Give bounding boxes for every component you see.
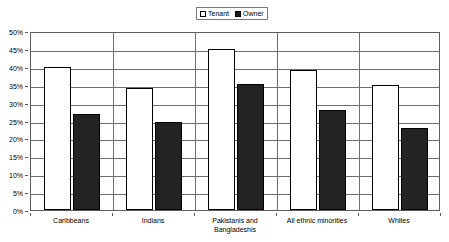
- y-tick-label: 30%: [9, 100, 23, 107]
- x-tick-mark: [358, 213, 359, 216]
- y-tick-mark: [25, 175, 28, 176]
- y-tick-mark: [25, 193, 28, 194]
- legend-label-owner: Owner: [243, 10, 264, 18]
- y-tick-mark: [25, 122, 28, 123]
- bar-owner: [155, 122, 182, 210]
- y-tick-mark: [25, 157, 28, 158]
- x-tick-mark: [112, 213, 113, 216]
- bars-layer: [31, 33, 439, 210]
- x-category-label: Pakistanis and Bangladeshis: [194, 216, 276, 234]
- bar-owner: [73, 114, 100, 210]
- chart-legend: Tenant Owner: [196, 7, 268, 20]
- y-tick-label: 40%: [9, 64, 23, 71]
- y-tick-mark: [25, 139, 28, 140]
- bar-owner: [319, 110, 346, 210]
- y-tick-label: 15%: [9, 154, 23, 161]
- plot-area: [30, 32, 440, 211]
- y-tick-mark: [25, 211, 28, 212]
- y-axis: 50%45%40%35%30%25%20%15%10%5%0%: [0, 32, 28, 211]
- y-tick-mark: [25, 32, 28, 33]
- legend-label-tenant: Tenant: [208, 10, 229, 18]
- x-category-label: Indians: [112, 216, 194, 225]
- x-category-label: Caribbeans: [30, 216, 112, 225]
- y-tick-label: 0%: [13, 208, 23, 215]
- y-tick-mark: [25, 104, 28, 105]
- legend-entry-owner: Owner: [235, 10, 264, 18]
- y-tick-mark: [25, 68, 28, 69]
- y-tick-label: 50%: [9, 29, 23, 36]
- x-tick-mark: [276, 213, 277, 216]
- x-tick-mark: [440, 213, 441, 216]
- bar-tenant: [372, 85, 399, 210]
- filled-square-icon: [235, 11, 241, 17]
- y-tick-label: 25%: [9, 118, 23, 125]
- y-tick-mark: [25, 86, 28, 87]
- bar-tenant: [126, 88, 153, 210]
- y-tick-label: 45%: [9, 46, 23, 53]
- x-tick-mark: [30, 213, 31, 216]
- bar-tenant: [208, 49, 235, 210]
- bar-owner: [401, 128, 428, 210]
- legend-entry-tenant: Tenant: [200, 10, 229, 18]
- bar-owner: [237, 84, 264, 210]
- y-tick-label: 5%: [13, 190, 23, 197]
- y-tick-label: 35%: [9, 82, 23, 89]
- bar-tenant: [290, 70, 317, 210]
- x-tick-mark: [194, 213, 195, 216]
- x-category-label: Whites: [358, 216, 440, 225]
- y-tick-mark: [25, 50, 28, 51]
- bar-tenant: [44, 67, 71, 210]
- bar-chart: Tenant Owner 50%45%40%35%30%25%20%15%10%…: [0, 0, 449, 242]
- hollow-square-icon: [200, 11, 206, 17]
- y-tick-label: 20%: [9, 136, 23, 143]
- y-tick-label: 10%: [9, 172, 23, 179]
- x-axis: CaribbeansIndiansPakistanis and Banglade…: [30, 213, 440, 242]
- x-category-label: All ethnic minorities: [276, 216, 358, 225]
